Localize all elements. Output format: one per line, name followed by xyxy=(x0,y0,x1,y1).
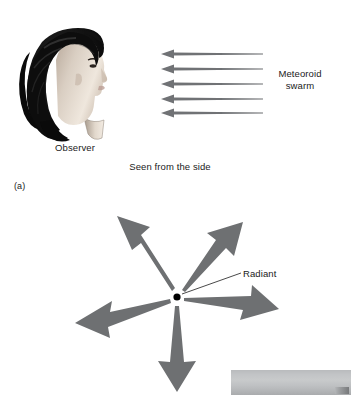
eye-shape xyxy=(90,64,97,67)
radiant-arrow-upper-right xyxy=(182,222,243,292)
meteoroid-arrow xyxy=(161,109,263,118)
seen-from-the-side-caption: Seen from the side xyxy=(60,161,280,173)
meteoroid-arrow-group xyxy=(161,50,263,118)
observer-head-illustration xyxy=(19,28,107,142)
radiant-arrow-down xyxy=(158,306,196,392)
photo-fragment xyxy=(231,370,351,395)
observer-label: Observer xyxy=(0,142,150,154)
lips-shape xyxy=(98,86,105,91)
radiant-label: Radiant xyxy=(243,268,276,280)
panel-a-label: (a) xyxy=(14,181,25,193)
meteoroid-arrow xyxy=(161,50,263,59)
hair-lock-bottom xyxy=(40,120,70,142)
meteoroid-arrow xyxy=(161,65,263,74)
meteoroid-radiant-figure: (a) Observer Meteoroid swarm Seen from t… xyxy=(0,0,351,395)
meteoroid-swarm-label: Meteoroid swarm xyxy=(252,68,348,91)
figure-artwork xyxy=(0,0,351,395)
meteoroid-arrow xyxy=(161,95,263,104)
radiant-arrow-group xyxy=(75,216,279,392)
photo-fragment-shadow xyxy=(335,387,349,394)
nose-shade xyxy=(101,68,107,82)
radiant-arrow-upper-left xyxy=(117,216,175,291)
meteoroid-arrow xyxy=(161,80,263,89)
radiant-arrow-right xyxy=(184,285,279,320)
radiant-point-dot xyxy=(173,293,180,300)
radiant-arrow-left xyxy=(75,299,171,338)
neck-shape xyxy=(84,118,104,139)
